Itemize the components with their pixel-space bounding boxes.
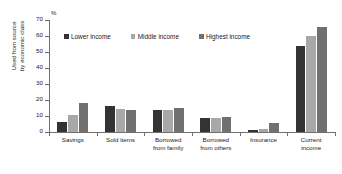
bar xyxy=(116,109,126,132)
y-axis-tick-label: 70 xyxy=(36,15,43,23)
bar xyxy=(68,115,78,132)
y-axis-tick-label: 50 xyxy=(36,47,43,55)
y-axis-tick: 60 xyxy=(45,36,49,37)
y-axis-tick: 40 xyxy=(45,68,49,69)
y-axis-line xyxy=(49,20,50,132)
bar-group xyxy=(296,20,327,132)
y-axis-title-line-1: Used from source xyxy=(10,0,18,94)
y-axis-unit-label: % xyxy=(51,10,56,16)
legend-swatch xyxy=(131,34,136,39)
x-axis-category-label-line: Current xyxy=(279,136,342,144)
bar xyxy=(163,110,173,132)
bar xyxy=(222,117,232,132)
y-axis-tick: 50 xyxy=(45,52,49,53)
y-axis-tick: 30 xyxy=(45,84,49,85)
bar xyxy=(259,129,269,132)
y-axis-tick: 20 xyxy=(45,100,49,101)
bar xyxy=(211,118,221,132)
legend-label: Lower income xyxy=(71,33,111,40)
y-axis-title-line-2: by economic class xyxy=(18,0,26,94)
bar xyxy=(126,110,136,132)
y-axis-tick-label: 20 xyxy=(36,95,43,103)
y-axis-tick-label: 10 xyxy=(36,111,43,119)
legend: Lower incomeMiddle incomeHighest income xyxy=(64,33,250,40)
y-axis-tick-label: 30 xyxy=(36,79,43,87)
x-axis-category-label-line: from others xyxy=(184,144,248,152)
bar-group xyxy=(248,20,279,132)
legend-label: Highest income xyxy=(206,33,250,40)
bar xyxy=(296,46,306,132)
legend-swatch xyxy=(199,34,204,39)
legend-item: Highest income xyxy=(199,33,250,40)
bar xyxy=(269,123,279,132)
y-axis-tick-label: 0 xyxy=(40,127,43,135)
legend-swatch xyxy=(64,34,69,39)
legend-label: Middle income xyxy=(138,33,179,40)
x-axis-category-label-line: income xyxy=(279,144,342,152)
y-axis-tick-label: 60 xyxy=(36,31,43,39)
bar xyxy=(57,122,67,132)
y-axis-tick: 70 xyxy=(45,20,49,21)
legend-item: Middle income xyxy=(131,33,179,40)
bar xyxy=(153,110,163,132)
bar xyxy=(174,108,184,132)
y-axis-tick: 10 xyxy=(45,116,49,117)
bar xyxy=(79,103,89,132)
bar-chart: Used from source by economic class % 010… xyxy=(0,0,342,174)
bar xyxy=(200,118,210,132)
y-axis-title: Used from source by economic class xyxy=(10,0,26,94)
bar xyxy=(105,106,115,132)
legend-item: Lower income xyxy=(64,33,111,40)
bar xyxy=(248,130,258,132)
bar xyxy=(306,36,316,132)
y-axis-tick-label: 40 xyxy=(36,63,43,71)
bar xyxy=(317,27,327,132)
x-axis-category-label: Currentincome xyxy=(279,136,342,152)
